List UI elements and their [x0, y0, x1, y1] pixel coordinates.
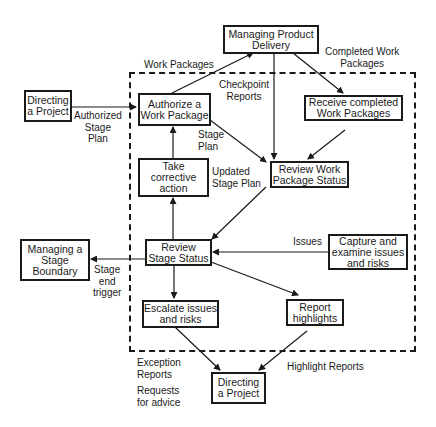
label-stage-end-trigger: Stage end trigger — [93, 264, 121, 299]
node-review-work-package-status: Review Work Package Status — [270, 161, 349, 188]
label-highlight-reports: Highlight Reports — [287, 361, 364, 373]
node-take-corrective-action: Take corrective action — [138, 158, 209, 197]
node-capture-examine-issues-risks: Capture and examine issues and risks — [328, 234, 408, 270]
label-issues: Issues — [293, 236, 322, 248]
node-label: Review Stage Status — [148, 242, 208, 264]
label-completed-work-packages: Completed Work Packages — [325, 46, 399, 69]
node-managing-product-delivery: Managing Product Delivery — [223, 25, 319, 54]
process-diagram: Managing Product Delivery Directing a Pr… — [0, 0, 436, 427]
node-review-stage-status: Review Stage Status — [145, 239, 212, 266]
node-label: Directing a Project — [218, 377, 259, 399]
node-directing-a-project-top: Directing a Project — [24, 90, 72, 122]
node-label: Managing a Stage Boundary — [28, 244, 83, 277]
label-updated-stage-plan: Updated Stage Plan — [212, 166, 261, 189]
node-label: Managing Product Delivery — [228, 29, 313, 51]
node-label: Authorize a Work Package — [140, 99, 208, 121]
node-managing-a-stage-boundary: Managing a Stage Boundary — [20, 239, 90, 281]
node-escalate-issues-risks: Escalate issues and risks — [142, 300, 219, 328]
node-label: Review Work Package Status — [273, 164, 347, 186]
node-label: Escalate issues and risks — [144, 303, 217, 325]
label-work-packages: Work Packages — [144, 59, 214, 71]
label-requests-for-advice: Requests for advice — [137, 385, 180, 408]
label-exception-reports: Exception Reports — [137, 357, 181, 380]
node-label: Receive completed Work Packages — [309, 97, 398, 119]
node-directing-a-project-bottom: Directing a Project — [211, 372, 266, 404]
node-label: Report highlights — [293, 302, 337, 324]
label-stage-plan: Stage Plan — [198, 129, 224, 152]
node-label: Directing a Project — [27, 95, 68, 117]
node-receive-completed-work-packages: Receive completed Work Packages — [304, 95, 403, 121]
node-label: Capture and examine issues and risks — [332, 236, 404, 269]
node-authorize-work-package: Authorize a Work Package — [138, 93, 211, 126]
node-label: Take corrective action — [151, 161, 197, 194]
node-report-highlights: Report highlights — [286, 299, 344, 326]
label-authorized-stage-plan: Authorized Stage Plan — [74, 110, 122, 145]
label-checkpoint-reports: Checkpoint Reports — [219, 79, 269, 102]
